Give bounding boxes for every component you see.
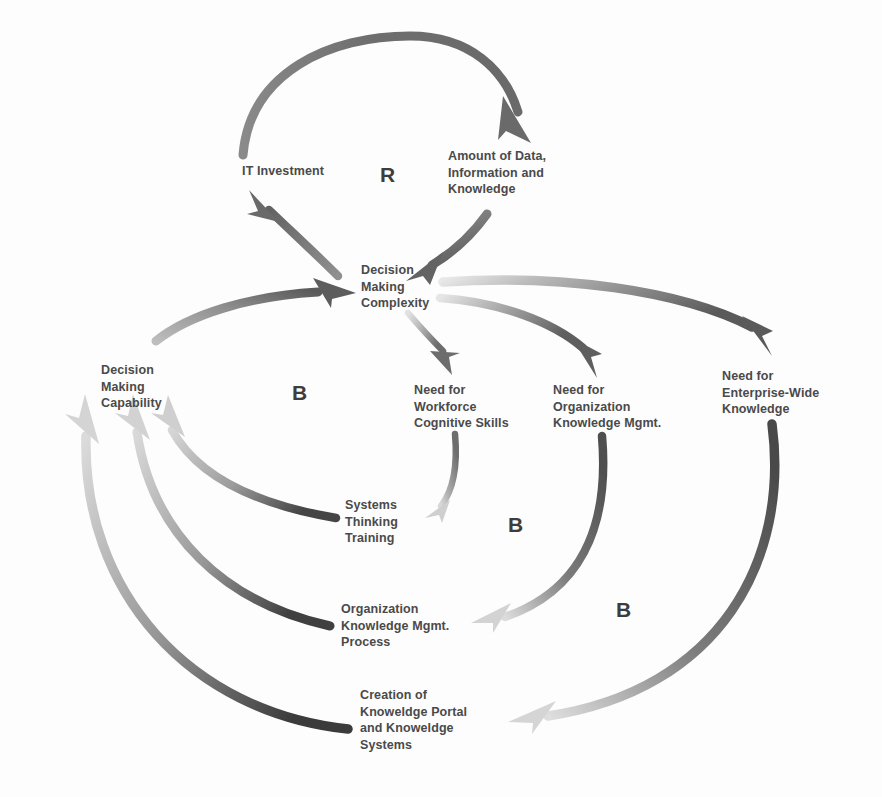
loop-label-balancing-left: B [292,381,308,405]
link-capability-to-complexity [156,278,356,341]
node-need-enterprise-wide-knowledge: Need for Enterprise-Wide Knowledge [722,368,857,418]
link-org-knowledge-mgmt-to-process [471,436,603,633]
node-need-workforce-cognitive-skills: Need for Workforce Cognitive Skills [414,382,534,432]
node-organization-knowledge-mgmt-process: Organization Knowledge Mgmt. Process [341,601,476,651]
link-it-investment-to-amount-of-data [243,36,531,155]
loop-label-reinforcing-top: R [380,163,396,187]
node-systems-thinking-training: Systems Thinking Training [345,497,450,547]
link-complexity-to-it-investment [247,190,338,276]
causal-loop-diagram: IT Investment Amount of Data, Informatio… [0,0,882,797]
link-systems-training-to-capability [151,395,336,518]
node-creation-of-knowledge-portal: Creation of Knoweldge Portal and Knoweld… [360,687,500,753]
link-complexity-to-workforce-skills [408,313,460,375]
node-decision-making-complexity: Decision Making Complexity [361,262,471,312]
node-decision-making-capability: Decision Making Capability [101,362,206,412]
loop-label-balancing-middle: B [508,513,524,537]
node-need-organization-knowledge-mgmt: Need for Organization Knowledge Mgmt. [553,382,681,432]
link-complexity-to-enterprise-knowledge [443,280,773,356]
node-amount-of-data: Amount of Data, Information and Knowledg… [448,148,578,198]
link-enterprise-knowledge-to-portal [508,424,775,734]
node-it-investment: IT Investment [218,163,348,180]
loop-label-balancing-right: B [616,598,632,622]
